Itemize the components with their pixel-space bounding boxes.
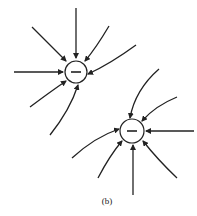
figure-caption: (b) [92,196,122,206]
charge-1 [65,61,87,83]
charge-2 [120,119,144,143]
field-lines-diagram [0,0,197,216]
